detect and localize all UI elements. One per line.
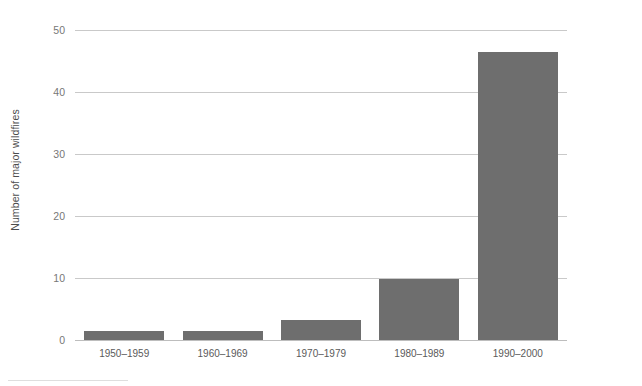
bars-layer: [75, 30, 567, 340]
bar: [478, 52, 558, 340]
bottom-rule: [8, 380, 128, 381]
y-tick-label: 10: [27, 272, 65, 284]
x-tick-label: 1970–1979: [296, 348, 346, 359]
y-axis-title-text: Number of major wildfires: [9, 109, 21, 231]
y-axis-title: Number of major wildfires: [0, 0, 30, 340]
x-tick-label: 1950–1959: [99, 348, 149, 359]
y-tick-label: 50: [27, 24, 65, 36]
x-tick-labels: 1950–19591960–19691970–19791980–19891990…: [75, 348, 567, 368]
x-tick-label: 1980–1989: [394, 348, 444, 359]
wildfires-bar-chart: Number of major wildfires 01020304050 19…: [0, 0, 642, 386]
x-tick-label: 1960–1969: [198, 348, 248, 359]
gridline-0: [75, 340, 567, 341]
y-tick-label: 30: [27, 148, 65, 160]
y-tick-label: 0: [27, 334, 65, 346]
bar: [281, 320, 361, 340]
bar: [84, 331, 164, 340]
y-tick-label: 40: [27, 86, 65, 98]
plot-area: [75, 30, 567, 340]
x-tick-label: 1990–2000: [493, 348, 543, 359]
y-tick-label: 20: [27, 210, 65, 222]
bar: [183, 331, 263, 340]
bar: [379, 279, 459, 340]
